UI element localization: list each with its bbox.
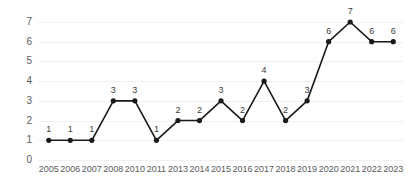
x-tick-label: 2020 — [319, 164, 339, 175]
x-tick-label: 2010 — [125, 164, 145, 175]
data-point-label: 2 — [240, 106, 245, 115]
data-point-marker — [111, 98, 116, 103]
data-point-label: 3 — [218, 86, 223, 95]
x-tick-label: 2021 — [340, 164, 360, 175]
x-tick-label: 2013 — [168, 164, 188, 175]
x-tick-label: 2015 — [211, 164, 231, 175]
data-point-label: 6 — [369, 27, 374, 36]
data-point-label: 1 — [154, 125, 159, 134]
data-point-label: 4 — [262, 66, 267, 75]
x-tick-label: 2005 — [39, 164, 59, 175]
data-point-label: 7 — [348, 7, 353, 16]
line-chart: 01234567 11133122324236766 2005200620072… — [0, 0, 413, 186]
x-axis: 2005200620072008201020112013201420152016… — [38, 164, 404, 182]
data-point-label: 3 — [111, 86, 116, 95]
data-point-marker — [197, 118, 202, 123]
data-point-label: 3 — [305, 86, 310, 95]
data-point-marker — [68, 138, 73, 143]
data-point-label: 3 — [132, 86, 137, 95]
data-point-marker — [240, 118, 245, 123]
data-point-marker — [369, 39, 374, 44]
data-point-marker — [283, 118, 288, 123]
data-point-label: 6 — [391, 27, 396, 36]
x-tick-label: 2007 — [82, 164, 102, 175]
x-tick-label: 2011 — [147, 164, 166, 175]
x-tick-label: 2018 — [276, 164, 296, 175]
data-point-marker — [46, 138, 51, 143]
data-point-label: 2 — [197, 106, 202, 115]
data-point-label: 6 — [326, 27, 331, 36]
x-tick-label: 2008 — [103, 164, 123, 175]
x-tick-label: 2016 — [233, 164, 253, 175]
x-tick-label: 2014 — [189, 164, 209, 175]
data-point-marker — [175, 118, 180, 123]
data-point-marker — [218, 98, 223, 103]
data-point-label: 1 — [89, 125, 94, 134]
x-tick-label: 2019 — [297, 164, 317, 175]
data-point-marker — [305, 98, 310, 103]
data-point-marker — [132, 98, 137, 103]
x-tick-label: 2017 — [254, 164, 274, 175]
data-point-marker — [391, 39, 396, 44]
data-point-marker — [326, 39, 331, 44]
data-point-label: 1 — [46, 125, 51, 134]
data-point-label: 1 — [68, 125, 73, 134]
series-polyline — [49, 22, 393, 140]
data-point-label: 2 — [175, 106, 180, 115]
data-point-marker — [154, 138, 159, 143]
x-tick-label: 2023 — [383, 164, 403, 175]
series-line — [0, 0, 413, 186]
data-point-label: 2 — [283, 106, 288, 115]
x-tick-label: 2006 — [60, 164, 80, 175]
data-point-marker — [348, 19, 353, 24]
x-tick-label: 2022 — [362, 164, 382, 175]
data-point-marker — [261, 79, 266, 84]
data-point-marker — [89, 138, 94, 143]
